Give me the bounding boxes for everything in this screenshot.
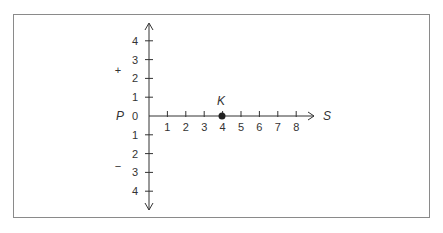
y-axis-name: P bbox=[116, 109, 124, 123]
y-tick-label-positive: 3 bbox=[132, 54, 138, 66]
x-tick-label: 8 bbox=[293, 121, 299, 133]
y-tick-label-negative: 1 bbox=[132, 129, 138, 141]
point-k-marker bbox=[219, 113, 226, 120]
x-tick-label: 6 bbox=[256, 121, 262, 133]
y-tick-label-negative: 3 bbox=[132, 166, 138, 178]
x-tick-label: 3 bbox=[201, 121, 207, 133]
origin-label: 0 bbox=[132, 110, 138, 122]
x-tick-label: 2 bbox=[183, 121, 189, 133]
x-tick-label: 5 bbox=[238, 121, 244, 133]
x-tick-label: 4 bbox=[220, 121, 226, 133]
y-tick-label-positive: 4 bbox=[132, 35, 138, 47]
x-tick-label: 7 bbox=[275, 121, 281, 133]
point-k-label: K bbox=[217, 94, 226, 108]
y-tick-label-negative: 2 bbox=[132, 148, 138, 160]
y-tick-label-positive: 1 bbox=[132, 91, 138, 103]
coordinate-plot: 12341234 12345678 0 P S + − K bbox=[0, 0, 443, 233]
positive-sign: + bbox=[115, 64, 121, 76]
negative-sign: − bbox=[115, 160, 121, 172]
x-axis-name: S bbox=[323, 109, 331, 123]
x-axis-ticks: 12345678 bbox=[164, 111, 299, 133]
y-tick-label-positive: 2 bbox=[132, 72, 138, 84]
y-tick-label-negative: 4 bbox=[132, 185, 138, 197]
x-tick-label: 1 bbox=[164, 121, 170, 133]
